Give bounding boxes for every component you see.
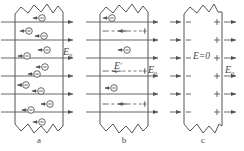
panel-a-electrons	[17, 15, 53, 126]
induced-field-row	[103, 28, 147, 34]
electron	[32, 88, 45, 95]
positive-surface-charge	[214, 91, 220, 97]
panel-a	[1, 4, 73, 133]
panel-c-caption: c	[188, 135, 218, 145]
panel-c-interior-field-label: E=0	[192, 51, 211, 61]
panel-b-external-field-label: E0	[148, 64, 157, 77]
panel-c-surface-charges	[186, 19, 220, 115]
panel-b-prime-mark: ′	[120, 62, 122, 71]
electron	[41, 101, 54, 108]
electron	[17, 82, 29, 89]
positive-surface-charge	[214, 109, 220, 115]
positive-surface-charge	[214, 55, 220, 61]
panel-b-caption: b	[109, 135, 139, 145]
electron	[20, 28, 33, 35]
electron	[38, 47, 51, 54]
panel-b-conductor-slab	[100, 4, 148, 133]
electron	[33, 119, 46, 126]
panel-c-E-subscript: 0	[231, 70, 234, 77]
panel-c-conductor-slab	[184, 4, 222, 133]
electron	[103, 15, 115, 22]
panel-b-induced-field-label: E′	[113, 60, 123, 71]
figure-canvas: E0 E0 E′ E=0 E0 a b c	[0, 0, 244, 151]
positive-surface-charge	[214, 19, 220, 25]
physics-diagram-svg	[0, 0, 244, 151]
electron	[36, 64, 49, 71]
panel-b-E-subscript: 0	[154, 70, 157, 77]
electron	[35, 33, 48, 40]
electron	[118, 47, 131, 54]
positive-surface-charge	[214, 37, 220, 43]
panel-b-electrons	[103, 15, 131, 92]
panel-a-caption: a	[24, 135, 54, 145]
electron	[33, 15, 46, 22]
positive-surface-charge	[214, 73, 220, 79]
panel-a-E-subscript: 0	[69, 52, 72, 59]
induced-field-row	[103, 68, 147, 74]
induced-field-row	[103, 101, 147, 107]
panel-a-external-field-label: E0	[63, 46, 72, 59]
panel-c-external-field-label: E0	[225, 64, 234, 77]
electron	[105, 85, 117, 92]
panel-a-conductor-slab	[15, 4, 63, 133]
